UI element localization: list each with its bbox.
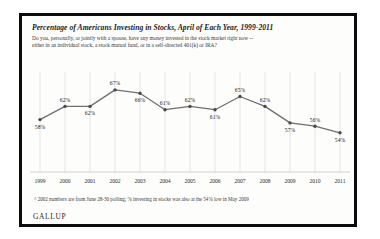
data-point — [288, 121, 291, 124]
x-axis-tick-label: 2005 — [184, 178, 195, 184]
data-point-label: 58% — [35, 124, 46, 130]
data-point — [63, 105, 66, 108]
data-point-label: 57% — [285, 127, 296, 133]
data-point — [138, 92, 141, 95]
chart-subtitle-line-2: either in an individual stock, a stock m… — [32, 42, 346, 49]
chart-svg: 58%62%62%67%66%61%62%61%65%62%57%56%54% — [30, 72, 350, 176]
data-point-label: 62% — [185, 97, 196, 103]
gallup-logo: GALLUP — [33, 212, 66, 221]
data-point-label: 54% — [335, 137, 346, 143]
chart-card: Percentage of Americans Investing in Sto… — [22, 16, 354, 224]
x-axis-tick-label: 2004 — [159, 178, 170, 184]
data-point-label: 61% — [210, 114, 221, 120]
data-point — [38, 118, 41, 121]
x-axis-tick-label: 2000 — [59, 178, 70, 184]
data-point — [263, 105, 266, 108]
chart-title: Percentage of Americans Investing in Sto… — [32, 23, 346, 32]
x-axis-tick-label: 2001 — [84, 178, 95, 184]
data-point-label: 62% — [60, 97, 71, 103]
gridlines — [40, 72, 340, 172]
x-axis-tick-label: 2008 — [259, 178, 270, 184]
data-point-label: 61% — [160, 100, 171, 106]
x-axis-tick-label: 2007 — [234, 178, 245, 184]
chart-subtitle-line-1: Do you, personally, or jointly with a sp… — [32, 35, 346, 42]
data-point — [338, 131, 341, 134]
data-point-label: 66% — [135, 97, 146, 103]
chart-frame: Percentage of Americans Investing in Sto… — [19, 13, 357, 227]
chart-footnote: ^ 2002 numbers are from June 28-30 polli… — [34, 196, 249, 202]
data-point-label: 65% — [235, 87, 246, 93]
x-axis-tick-label: 1999 — [34, 178, 45, 184]
data-point — [113, 88, 116, 91]
data-point — [188, 105, 191, 108]
data-point — [238, 95, 241, 98]
data-point — [213, 108, 216, 111]
x-axis-tick-label: 2009 — [284, 178, 295, 184]
line-chart-plot: 58%62%62%67%66%61%62%61%65%62%57%56%54% — [30, 72, 350, 176]
x-axis-tick-label: 2002 — [109, 178, 120, 184]
data-point-label: 62% — [85, 110, 96, 116]
x-axis-tick-label: 2010 — [309, 178, 320, 184]
x-axis-labels: 1999200020012002200320042005200620072008… — [30, 178, 350, 190]
x-axis-tick-label: 2006 — [209, 178, 220, 184]
data-point — [88, 105, 91, 108]
data-point — [163, 108, 166, 111]
data-point-label: 62% — [260, 97, 271, 103]
x-axis-tick-label: 2003 — [134, 178, 145, 184]
data-point-label: 67% — [110, 80, 121, 86]
data-point — [313, 125, 316, 128]
data-point-label: 56% — [310, 117, 321, 123]
x-axis-tick-label: 2011 — [335, 178, 346, 184]
